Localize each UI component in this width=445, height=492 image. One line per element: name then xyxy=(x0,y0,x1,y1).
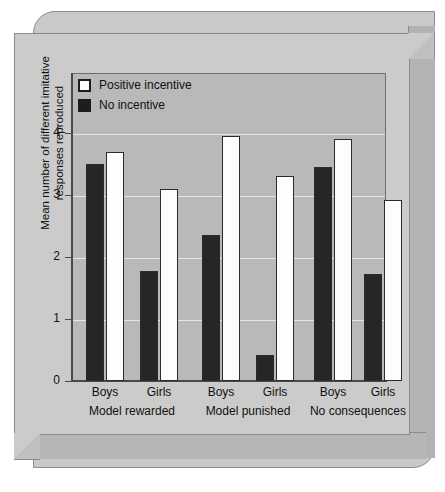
legend-swatch-icon-no-incentive xyxy=(78,99,91,112)
y-axis-title: Mean number of different imitative respo… xyxy=(38,43,66,243)
bar-positive-incentive xyxy=(106,152,124,381)
y-axis-tick: 3 xyxy=(65,195,72,196)
bar-positive-incentive xyxy=(160,189,178,381)
y-axis-tick-label: 2 xyxy=(53,249,60,263)
bar-no-incentive xyxy=(86,164,104,381)
gridline xyxy=(73,134,385,135)
bar-no-incentive xyxy=(140,271,158,381)
bar-positive-incentive xyxy=(384,200,402,381)
page-fold-bottom-left xyxy=(14,433,40,460)
x-axis-tick-label: Girls xyxy=(132,385,186,399)
bar-chart: 01234 Mean number of different imitative… xyxy=(14,33,408,433)
legend-swatch-icon-positive-incentive xyxy=(78,79,91,92)
bar-no-incentive xyxy=(202,235,220,381)
bar-no-incentive xyxy=(364,274,382,381)
x-axis-tick-label: Girls xyxy=(356,385,410,399)
y-axis-tick: 0 xyxy=(65,381,72,382)
x-axis-tick-label: Girls xyxy=(248,385,302,399)
y-axis-tick-label: 1 xyxy=(53,311,60,325)
bar-positive-incentive xyxy=(222,136,240,381)
bar-no-incentive xyxy=(314,167,332,381)
legend-label-no-incentive: No incentive xyxy=(99,98,165,112)
y-axis-tick: 4 xyxy=(65,133,72,134)
bar-positive-incentive xyxy=(334,139,352,381)
x-axis-group-label: No consequences xyxy=(290,404,426,418)
chart-screenshot: 01234 Mean number of different imitative… xyxy=(0,0,445,492)
y-axis-tick-label: 0 xyxy=(53,373,60,387)
chart-legend: Positive incentive No incentive xyxy=(78,78,192,118)
x-axis-tick-label: Boys xyxy=(306,385,360,399)
y-axis-tick: 1 xyxy=(65,319,72,320)
legend-item-no-incentive: No incentive xyxy=(78,98,192,112)
bar-no-incentive xyxy=(256,355,274,381)
x-axis-tick-label: Boys xyxy=(194,385,248,399)
bar-positive-incentive xyxy=(276,176,294,381)
y-axis-line xyxy=(71,73,73,382)
page-edge-right xyxy=(408,26,435,458)
x-axis-tick-label: Boys xyxy=(78,385,132,399)
page-fold-top-right xyxy=(408,33,435,59)
legend-item-positive-incentive: Positive incentive xyxy=(78,78,192,92)
legend-label-positive-incentive: Positive incentive xyxy=(99,78,192,92)
y-axis-tick: 2 xyxy=(65,257,72,258)
page-edge-bottom xyxy=(26,432,426,459)
